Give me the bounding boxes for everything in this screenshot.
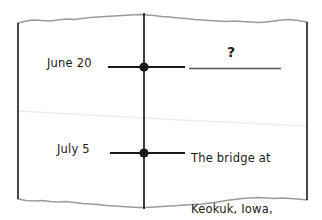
unknown-question-mark: ? — [227, 45, 235, 60]
event-dot-june — [139, 62, 148, 71]
paper-background — [0, 0, 322, 220]
event-date-label-july: July 5 — [57, 143, 90, 156]
event-dot-july — [139, 148, 148, 157]
torn-paper-timeline-figure: June 20 July 5 ? The bridge at Keokuk, I… — [0, 0, 322, 220]
event-date-label-june: June 20 — [47, 57, 92, 70]
event-note-line-2: Keokuk, Iowa, — [191, 201, 273, 218]
event-note-line-1: The bridge at — [191, 150, 273, 167]
event-note-july: The bridge at Keokuk, Iowa, was closed. — [191, 116, 273, 220]
timeline-artwork — [0, 0, 322, 220]
